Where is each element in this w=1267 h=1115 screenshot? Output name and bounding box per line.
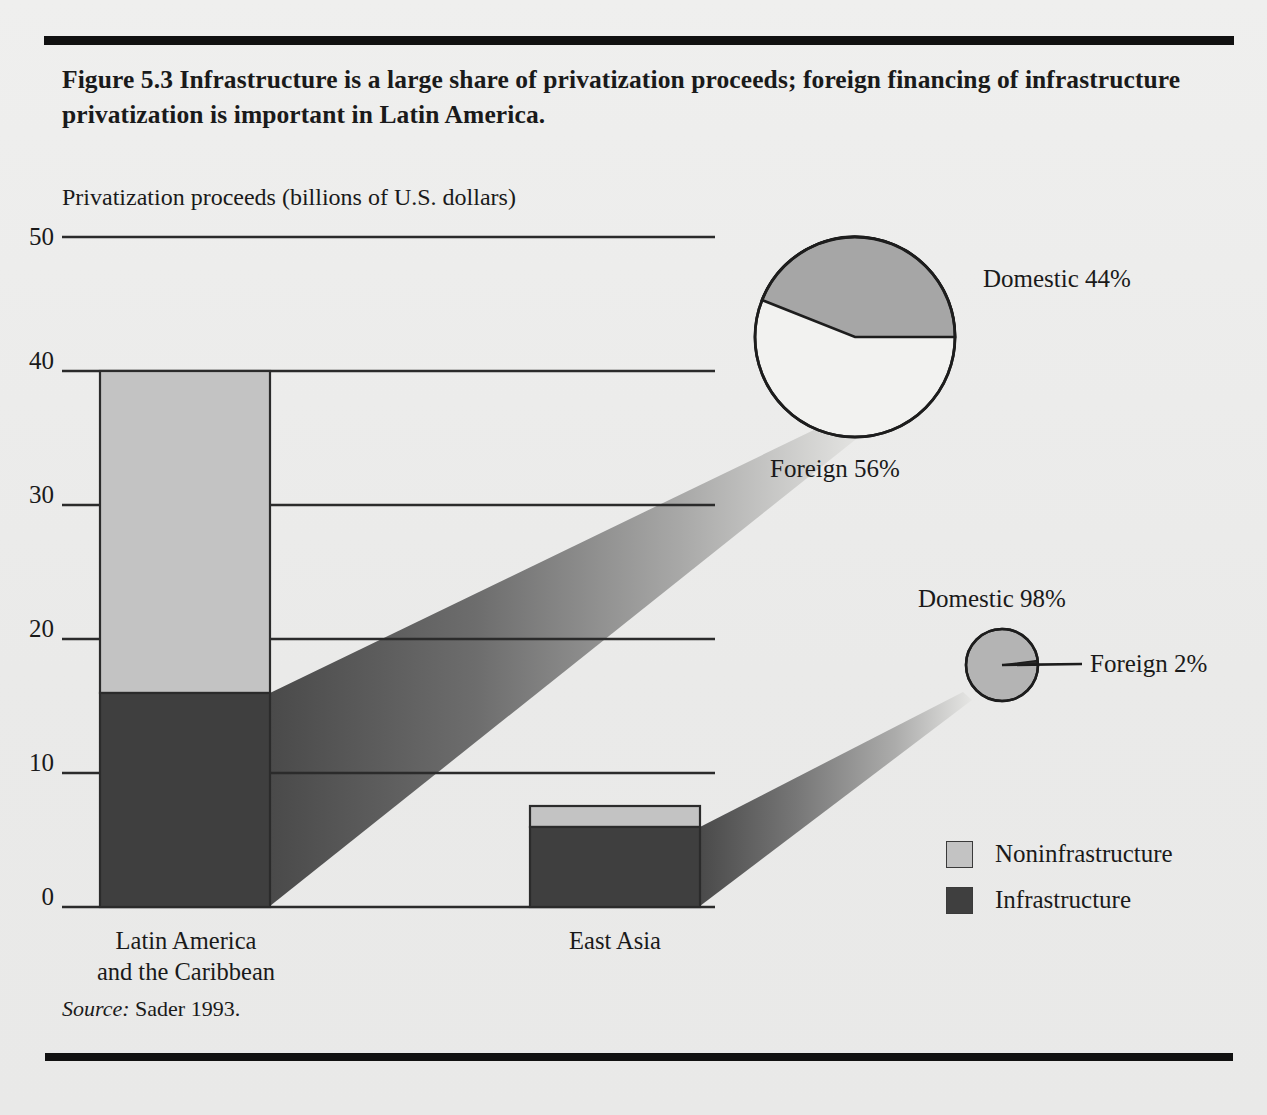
category-label-east-asia: East Asia (520, 925, 710, 956)
bar-segment-infrastructure-east-asia[interactable] (530, 827, 700, 907)
y-tick-50: 50 (8, 224, 54, 249)
legend-label-noninfrastructure: Noninfrastructure (995, 840, 1173, 868)
figure-page: Figure 5.3 Infrastructure is a large sha… (0, 0, 1267, 1115)
pie-label-foreign-large: Foreign 56% (770, 455, 900, 483)
bar-latin-america[interactable] (100, 371, 270, 907)
pie-label-domestic-small: Domestic 98% (918, 585, 1066, 613)
pie-label-foreign-small: Foreign 2% (1090, 650, 1207, 678)
y-tick-10: 10 (8, 750, 54, 775)
pie-leader-line-foreign-small (1002, 664, 1082, 665)
east-asia-financing-pie[interactable] (966, 629, 1082, 701)
bar-segment-noninfrastructure-latin-america[interactable] (100, 371, 270, 693)
bar-segment-infrastructure-latin-america[interactable] (100, 693, 270, 907)
category-label-east-asia-line1: East Asia (520, 925, 710, 956)
legend-swatch-noninfrastructure (946, 841, 973, 868)
legend-swatch-infrastructure (946, 887, 973, 914)
y-tick-0: 0 (8, 884, 54, 909)
bar-east-asia[interactable] (530, 806, 700, 907)
category-label-latin-america-line2: and the Caribbean (55, 956, 317, 987)
y-tick-30: 30 (8, 482, 54, 507)
source-note-prefix: Source: (62, 996, 130, 1021)
bar-segment-noninfrastructure-east-asia[interactable] (530, 806, 700, 827)
y-tick-40: 40 (8, 348, 54, 373)
pie-label-domestic-large: Domestic 44% (983, 265, 1131, 293)
category-label-latin-america-line1: Latin America (55, 925, 317, 956)
source-note-text: Sader 1993. (130, 996, 241, 1021)
legend-label-infrastructure: Infrastructure (995, 886, 1131, 914)
source-note: Source: Sader 1993. (62, 996, 240, 1022)
y-tick-20: 20 (8, 616, 54, 641)
category-label-latin-america: Latin America and the Caribbean (55, 925, 317, 987)
latin-america-financing-pie[interactable] (755, 237, 955, 437)
connector-ribbon-east-asia (700, 692, 972, 906)
